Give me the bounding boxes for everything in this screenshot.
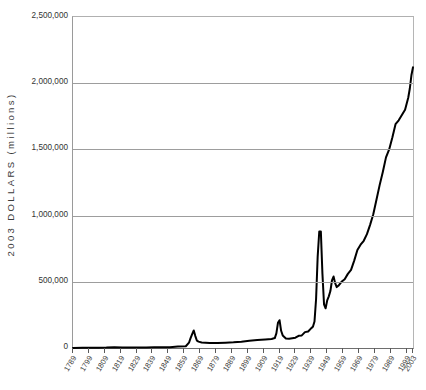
y-tick-label: 0 (16, 343, 68, 351)
gridline (73, 282, 413, 283)
x-tick-mark (151, 348, 152, 353)
x-tick-mark (326, 348, 327, 353)
x-tick-label: 1829 (125, 354, 142, 373)
x-tick-mark (120, 348, 121, 353)
y-tick-label: 2,500,000 (16, 12, 68, 20)
x-tick-label: 1909 (253, 354, 270, 373)
x-tick-mark (310, 348, 311, 353)
x-tick-mark (104, 348, 105, 353)
x-tick-label: 1959 (332, 354, 349, 373)
x-tick-mark (231, 348, 232, 353)
x-tick-label: 1849 (157, 354, 174, 373)
x-tick-label: 1949 (316, 354, 333, 373)
x-tick-label: 1859 (173, 354, 190, 373)
series-polyline (73, 67, 413, 348)
x-tick-mark (88, 348, 89, 353)
y-axis-tick-labels: 2,500,0002,000,0001,500,0001,000,000500,… (14, 0, 68, 390)
x-tick-mark (294, 348, 295, 353)
x-tick-mark (263, 348, 264, 353)
x-tick-mark (72, 348, 73, 353)
y-tick-label: 1,000,000 (16, 211, 68, 219)
x-tick-label: 1939 (300, 354, 317, 373)
x-tick-label: 1989 (380, 354, 397, 373)
x-tick-label: 1899 (237, 354, 254, 373)
plot-area (72, 16, 414, 349)
x-tick-mark (279, 348, 280, 353)
x-tick-mark (183, 348, 184, 353)
x-tick-label: 1929 (284, 354, 301, 373)
x-tick-mark (136, 348, 137, 353)
x-tick-mark (406, 348, 407, 353)
x-tick-mark (412, 348, 413, 353)
x-tick-label: 1969 (348, 354, 365, 373)
x-tick-label: 1919 (268, 354, 285, 373)
x-tick-mark (215, 348, 216, 353)
x-tick-label: 1809 (94, 354, 111, 373)
x-tick-mark (247, 348, 248, 353)
x-tick-mark (199, 348, 200, 353)
x-tick-mark (374, 348, 375, 353)
x-tick-label: 1869 (189, 354, 206, 373)
series-line-federal-outlays (73, 17, 413, 348)
x-tick-label: 1799 (78, 354, 95, 373)
x-axis-tick-labels: 1789179918091819182918391849185918691879… (72, 354, 413, 390)
y-tick-label: 500,000 (16, 277, 68, 285)
x-tick-label: 1979 (364, 354, 381, 373)
x-tick-mark (342, 348, 343, 353)
x-tick-label: 1819 (110, 354, 127, 373)
y-tick-label: 1,500,000 (16, 144, 68, 152)
x-tick-label: 1879 (205, 354, 222, 373)
gridline (73, 83, 413, 84)
x-tick-label: 1889 (221, 354, 238, 373)
x-tick-mark (390, 348, 391, 353)
x-tick-mark (167, 348, 168, 353)
gridline (73, 216, 413, 217)
x-tick-label: 1839 (141, 354, 158, 373)
gridline (73, 149, 413, 150)
chart-container: 2003 DOLLARS (millions) 2,500,0002,000,0… (0, 0, 426, 390)
y-tick-label: 2,000,000 (16, 78, 68, 86)
x-tick-mark (358, 348, 359, 353)
